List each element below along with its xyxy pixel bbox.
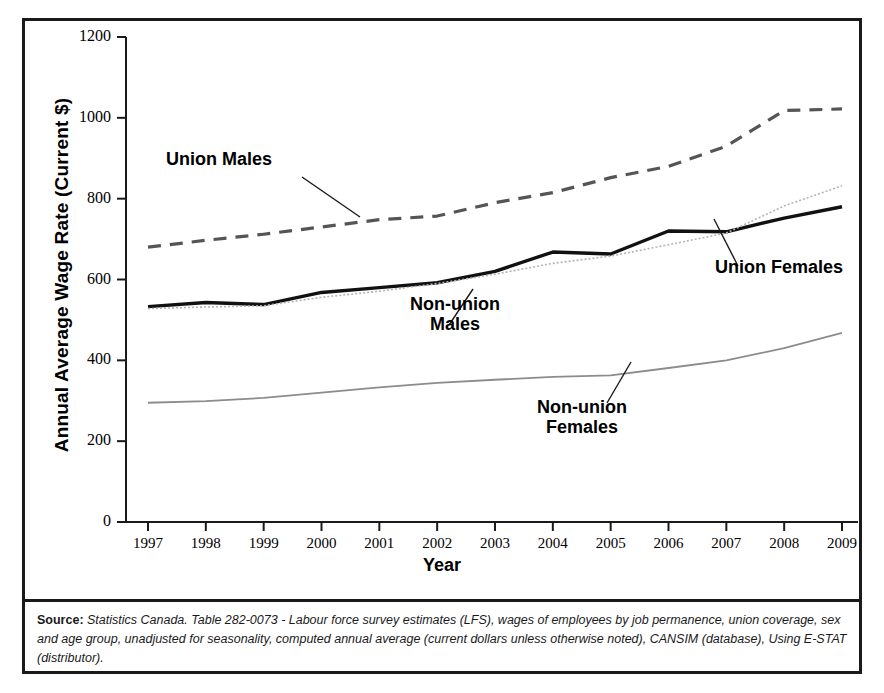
series-label-non-union-females-line2: Females — [537, 417, 627, 437]
x-tick-label: 1997 — [118, 536, 178, 551]
series-label-non-union-females: Non-union Females — [537, 397, 627, 437]
series-line-non-union-females — [148, 333, 842, 403]
series-line-union-males — [148, 109, 842, 247]
x-tick-label: 2006 — [639, 536, 699, 551]
series-label-non-union-males-line1: Non-union — [410, 294, 500, 314]
chart-figure: 1200 1000 800 600 400 200 0 1997 1998 19… — [22, 18, 862, 674]
x-axis-title: Year — [25, 555, 859, 576]
series-label-union-females: Union Females — [715, 257, 843, 277]
x-tick-label: 2005 — [581, 536, 641, 551]
x-tick-label: 2007 — [696, 536, 756, 551]
series-label-non-union-females-line1: Non-union — [537, 397, 627, 417]
axes — [126, 37, 858, 522]
x-tick-label: 2002 — [407, 536, 467, 551]
x-tick-label: 1998 — [176, 536, 236, 551]
leader-line-union-males — [302, 177, 360, 217]
source-note-text: Source: Statistics Canada. Table 282-007… — [37, 611, 847, 668]
x-tick-label: 2000 — [292, 536, 352, 551]
x-tick-label: 2008 — [754, 536, 814, 551]
x-tick-label: 2001 — [349, 536, 409, 551]
y-axis-ticks — [117, 37, 126, 522]
series-label-non-union-males: Non-union Males — [410, 294, 500, 334]
series-label-non-union-males-line2: Males — [410, 314, 500, 334]
source-note: Source: Statistics Canada. Table 282-007… — [25, 599, 859, 674]
x-tick-label: 2009 — [812, 536, 872, 551]
y-tick-label: 1200 — [51, 28, 111, 44]
chart-plot-area: 1200 1000 800 600 400 200 0 1997 1998 19… — [25, 21, 859, 599]
series-line-non-union-males — [148, 186, 842, 309]
series-label-union-males: Union Males — [166, 149, 272, 169]
x-tick-label: 1999 — [234, 536, 294, 551]
source-note-label: Source: — [37, 613, 84, 627]
y-axis-title: Annual Average Wage Rate (Current $) — [51, 75, 73, 475]
x-tick-label: 2003 — [465, 536, 525, 551]
y-tick-label: 0 — [51, 513, 111, 529]
x-tick-label: 2004 — [523, 536, 583, 551]
source-note-body: Statistics Canada. Table 282-0073 - Labo… — [37, 613, 846, 665]
x-axis-ticks — [148, 522, 842, 531]
